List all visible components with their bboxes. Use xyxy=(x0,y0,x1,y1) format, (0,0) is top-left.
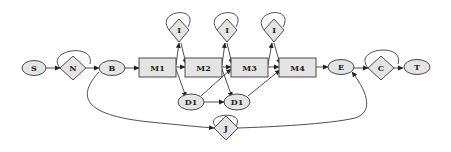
node-t: T xyxy=(404,60,430,75)
node-j-label: J xyxy=(223,123,228,133)
node-m1-label: M1 xyxy=(150,63,164,73)
node-s: S xyxy=(22,61,46,76)
node-m4-label: M4 xyxy=(290,63,305,73)
node-c-label: C xyxy=(378,63,384,73)
node-i1: I xyxy=(169,19,189,42)
node-c: C xyxy=(368,56,394,80)
node-d1b: D1 xyxy=(224,94,250,110)
node-i2-label: I xyxy=(225,25,229,35)
node-d1b-label: D1 xyxy=(231,97,244,107)
node-j: J xyxy=(214,116,238,140)
flow-diagram: S N B M1 M2 M3 M4 I I I D1 D1 xyxy=(0,0,451,152)
node-m2: M2 xyxy=(185,58,222,77)
node-b: B xyxy=(99,61,125,76)
node-b-label: B xyxy=(109,63,116,73)
node-e-label: E xyxy=(338,62,344,72)
node-t-label: T xyxy=(414,62,420,72)
node-i3-label: I xyxy=(272,25,276,35)
node-d1a-label: D1 xyxy=(185,97,198,107)
node-m1: M1 xyxy=(139,58,176,77)
edge-j-e xyxy=(238,72,367,128)
node-i1-label: I xyxy=(177,25,181,35)
node-n: N xyxy=(60,56,86,80)
node-i2: I xyxy=(217,19,237,42)
node-i3: I xyxy=(264,19,284,42)
node-s-label: S xyxy=(31,63,37,73)
node-m3-label: M3 xyxy=(242,63,257,73)
node-m3: M3 xyxy=(231,58,268,77)
node-m2-label: M2 xyxy=(196,63,210,73)
node-n-label: N xyxy=(69,63,76,73)
node-e: E xyxy=(328,60,354,75)
node-d1a: D1 xyxy=(178,94,204,110)
node-m4: M4 xyxy=(279,58,316,77)
edge-m3-i3 xyxy=(268,43,272,65)
